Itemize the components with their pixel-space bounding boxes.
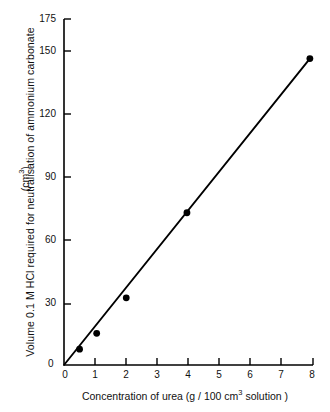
- data-point: [123, 294, 130, 301]
- x-tick-marks: [95, 358, 313, 365]
- y-tick-marks: [64, 19, 71, 304]
- chart-figure: Volume 0.1 M HCl required for neutralisa…: [0, 0, 330, 412]
- data-point: [306, 55, 313, 62]
- data-point: [76, 346, 83, 353]
- data-point: [93, 330, 100, 337]
- plot-area: [0, 0, 330, 412]
- data-point: [184, 209, 191, 216]
